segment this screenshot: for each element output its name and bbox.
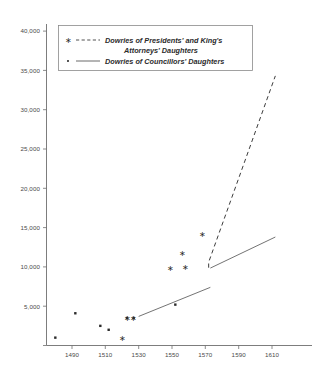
y-axis-label-20000: 20,000: [20, 185, 40, 192]
presidents-data-points: ∗∗∗∗∗∗∗: [119, 230, 206, 343]
x-axis-label-1550: 1550: [165, 351, 180, 358]
data-point-councillors-5: [132, 317, 134, 319]
data-point-presidents-6: ∗: [199, 230, 206, 239]
x-axis-labels: 1490 1510 1530 1550 1570 1590 1610: [65, 351, 280, 358]
x-axis-label-1510: 1510: [98, 351, 113, 358]
councillors-trend-line-lower: [139, 287, 211, 316]
y-axis-label-5000: 5,000: [24, 303, 40, 310]
x-axis-ticks: [72, 346, 272, 350]
y-axis-label-10000: 10,000: [20, 263, 40, 270]
councillors-trend-line-upper: [210, 237, 275, 268]
data-point-presidents-0: ∗: [119, 334, 126, 343]
legend-label-councillors: Dowries of Councillors' Daughters: [105, 57, 224, 66]
axis-lines: [47, 24, 313, 346]
trend-lines-group: [139, 76, 276, 317]
y-axis-label-35000: 35,000: [20, 67, 40, 74]
legend-label-presidents-line1: Dowries of Presidents' and King's: [105, 36, 222, 45]
y-axis-labels: 5,000 10,000 15,000 20,000 25,000 30,000…: [20, 27, 40, 309]
data-point-presidents-3: ∗: [167, 264, 174, 273]
chart-legend: ∗ Dowries of Presidents' and King's Atto…: [59, 26, 253, 71]
x-axis-label-1570: 1570: [198, 351, 213, 358]
legend-label-presidents-line2: Attorneys' Daughters: [123, 46, 198, 55]
data-point-councillors-3: [107, 329, 109, 331]
asterisk-marker-icon: ∗: [65, 36, 72, 45]
y-axis-label-15000: 15,000: [20, 224, 40, 231]
dowries-scatter-chart: 5,000 10,000 15,000 20,000 25,000 30,000…: [0, 0, 323, 383]
data-point-councillors-4: [126, 317, 128, 319]
data-point-presidents-5: ∗: [182, 263, 189, 272]
data-point-councillors-0: [54, 336, 56, 338]
axis-group: [47, 24, 313, 346]
dot-marker-icon: [67, 60, 69, 62]
chart-container: 5,000 10,000 15,000 20,000 25,000 30,000…: [0, 0, 323, 383]
data-point-councillors-2: [99, 325, 101, 327]
y-axis-label-25000: 25,000: [20, 145, 40, 152]
data-point-councillors-6: [174, 303, 176, 305]
x-axis-label-1490: 1490: [65, 351, 80, 358]
data-point-presidents-4: ∗: [179, 249, 186, 258]
x-axis-label-1530: 1530: [132, 351, 147, 358]
data-point-councillors-1: [74, 312, 76, 314]
x-axis-label-1610: 1610: [265, 351, 280, 358]
y-axis-label-30000: 30,000: [20, 106, 40, 113]
x-axis-label-1590: 1590: [232, 351, 247, 358]
presidents-trend-line: [209, 76, 276, 268]
y-axis-label-40000: 40,000: [20, 27, 40, 34]
y-axis-ticks: [43, 31, 47, 345]
